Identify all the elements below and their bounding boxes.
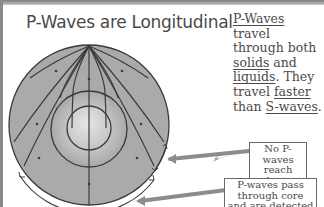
term-p-waves: P-Waves <box>233 11 284 26</box>
detected-zone-label: P-waves pass through core and are detect… <box>224 178 317 207</box>
page-title: P-Waves are Longitudinal <box>26 12 233 32</box>
top-bar <box>0 0 324 5</box>
